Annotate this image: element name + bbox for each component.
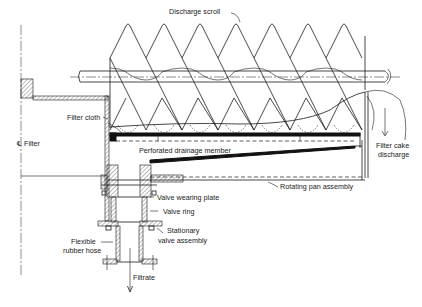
label-filter-centerline: ℄ Filter bbox=[16, 139, 41, 148]
label-filter-cloth: Filter cloth bbox=[67, 113, 100, 122]
label-valve-wearing-plate: Valve wearing plate bbox=[157, 193, 219, 202]
label-filter-cake-discharge-1: Filter cake bbox=[376, 141, 409, 150]
label-filtrate: Filtrate bbox=[133, 273, 155, 282]
diagram-canvas: Discharge scroll Filter cloth ℄ Filter P… bbox=[0, 0, 422, 307]
label-stationary-valve-2: valve assembly bbox=[158, 236, 208, 245]
label-stationary-valve-1: Stationary bbox=[167, 226, 200, 235]
left-support-arm bbox=[21, 79, 109, 221]
discharge-scroll bbox=[110, 24, 365, 133]
label-flexible-hose-2: rubber hose bbox=[63, 246, 101, 255]
label-valve-ring: Valve ring bbox=[163, 207, 194, 216]
label-rotating-pan-assembly: Rotating pan assembly bbox=[280, 182, 354, 191]
filter-cake-discharge-flow bbox=[365, 90, 406, 178]
label-discharge-scroll: Discharge scroll bbox=[169, 7, 221, 16]
labels: Discharge scroll Filter cloth ℄ Filter P… bbox=[16, 7, 409, 282]
label-perforated-drainage-member: Perforated drainage member bbox=[139, 146, 231, 155]
label-flexible-hose-1: Flexible bbox=[71, 237, 96, 246]
label-filter-cake-discharge-2: discharge bbox=[378, 150, 409, 159]
